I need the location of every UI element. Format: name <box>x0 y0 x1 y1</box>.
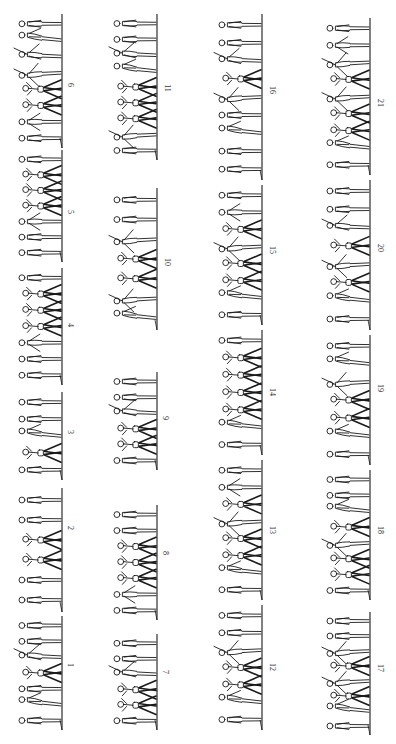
figure-stand <box>114 36 156 43</box>
figure-stand <box>327 161 369 168</box>
figure-pyramid-base <box>223 546 261 564</box>
figure-stand <box>19 372 61 379</box>
sequence-number-label: 14 <box>268 388 276 396</box>
figure-spread <box>109 289 156 312</box>
sequence-number-label: 5 <box>66 210 74 214</box>
figure-pyramid-base <box>23 444 61 462</box>
figure-pyramid-base <box>118 250 156 268</box>
sequence-number-label: 4 <box>66 323 74 327</box>
figure-stand <box>114 607 156 614</box>
sequence-7 <box>109 634 157 730</box>
sequence-number-label: 10 <box>163 258 171 266</box>
figure-pyramid-base <box>23 80 61 98</box>
sequence-number-label: 16 <box>268 86 276 94</box>
sequence-number-label: 8 <box>161 551 169 555</box>
figure-stand <box>219 441 261 448</box>
figure-stand <box>19 685 61 692</box>
figure-raise <box>219 479 261 496</box>
sequence-8 <box>114 505 157 620</box>
figure-stand <box>19 399 61 406</box>
figure-stand <box>114 640 156 647</box>
figure-pyramid-base <box>223 495 261 513</box>
figure-stand <box>327 188 369 195</box>
figure-pyramid-base <box>23 317 61 335</box>
sequence-19 <box>322 335 370 465</box>
sequence-3 <box>19 392 62 480</box>
figure-lean <box>19 693 61 706</box>
figure-stand <box>219 586 261 593</box>
figure-pyramid-base <box>23 197 61 215</box>
figure-pyramid-base <box>223 254 261 272</box>
figure-stand <box>114 655 156 662</box>
figure-pyramid-base <box>118 94 156 112</box>
sequence-number-label: 17 <box>376 664 384 672</box>
figure-stand <box>19 597 61 604</box>
figure-raise <box>219 204 261 221</box>
figure-stand <box>19 638 61 645</box>
figure-pyramid-base <box>223 271 261 289</box>
figure-stand <box>19 135 61 142</box>
sequence-21 <box>322 18 370 175</box>
figure-pyramid-base <box>223 366 261 384</box>
figure-stand <box>114 717 156 724</box>
figure-pyramid-base <box>223 676 261 694</box>
figure-pyramid-base <box>118 269 156 287</box>
figure-stand <box>219 629 261 636</box>
figure-stand <box>114 378 156 385</box>
sequence-6 <box>14 14 62 148</box>
sequence-18 <box>322 470 370 600</box>
sequence-2 <box>19 488 62 612</box>
figure-lean <box>327 499 369 512</box>
figure-stand <box>19 274 61 281</box>
figure-stand <box>327 476 369 483</box>
sequence-number-label: 12 <box>268 663 276 671</box>
sequence-number-label: 3 <box>66 430 74 434</box>
figure-pyramid-base <box>118 420 156 438</box>
figure-stand <box>219 612 261 619</box>
sequence-number-label: 9 <box>161 416 169 420</box>
figure-pyramid-base <box>23 551 61 569</box>
figure-pyramid-base <box>223 658 261 676</box>
figure-stand <box>219 21 261 28</box>
figure-stand <box>327 206 369 213</box>
figure-pyramid-base <box>223 70 261 88</box>
figure-pyramid-base <box>331 657 369 675</box>
figure-stand <box>19 622 61 629</box>
sequence-number-label: 21 <box>376 99 384 107</box>
figure-stand <box>327 618 369 625</box>
figure-spread <box>109 230 156 253</box>
figure-stand <box>19 20 61 27</box>
figure-stand <box>19 577 61 584</box>
figure-stand <box>19 249 61 256</box>
figure-pyramid-base <box>23 285 61 303</box>
figure-stand <box>327 25 369 32</box>
figure-pyramid-base <box>331 70 369 88</box>
figure-spread <box>322 642 369 665</box>
figure-raise <box>327 37 369 54</box>
figure-stand <box>219 467 261 474</box>
figure-stand <box>19 416 61 423</box>
figure-reach <box>214 48 261 63</box>
figure-pyramid-base <box>331 391 369 409</box>
figure-stand <box>219 311 261 318</box>
sequence-12 <box>214 605 262 730</box>
figure-stand <box>114 20 156 27</box>
figure-pyramid-base <box>331 565 369 583</box>
figure-stand <box>19 466 61 473</box>
sequence-15 <box>214 185 262 325</box>
figure-stand <box>114 457 156 464</box>
sequence-17 <box>322 612 370 735</box>
figure-pyramid-base <box>118 681 156 699</box>
figure-pyramid-base <box>23 181 61 199</box>
figure-stand <box>114 216 156 223</box>
figure-stand <box>219 337 261 344</box>
figure-drawing <box>0 0 396 744</box>
figure-stand <box>327 316 369 323</box>
figure-pyramid-base <box>223 383 261 401</box>
sequence-11 <box>109 14 157 160</box>
figure-stand <box>19 356 61 363</box>
sequence-number-label: 15 <box>268 246 276 254</box>
sequence-16 <box>214 14 262 180</box>
figure-pyramid-base <box>118 696 156 714</box>
figure-stand <box>327 587 369 594</box>
